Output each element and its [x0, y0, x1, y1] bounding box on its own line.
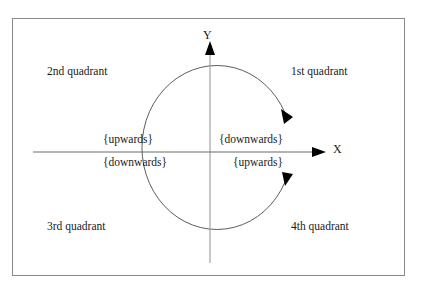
quadrant-label-fourth: 4th quadrant	[291, 221, 349, 233]
direction-label-lower-left: {downwards}	[103, 157, 167, 169]
direction-label-upper-left: {upwards}	[103, 134, 153, 146]
circle-arrow-clockwise-icon	[281, 109, 293, 124]
y-axis-arrowhead-icon	[205, 41, 215, 55]
figure-container: Y X 2nd quadrant 1st quadrant 3rd quadra…	[0, 0, 426, 295]
quadrant-label-second: 2nd quadrant	[47, 66, 107, 78]
quadrant-label-third: 3rd quadrant	[47, 221, 105, 233]
direction-label-lower-right: {upwards}	[233, 157, 283, 169]
quadrant-label-first: 1st quadrant	[291, 66, 348, 78]
x-axis-arrowhead-icon	[312, 147, 326, 157]
circle-arrow-counterclockwise-icon	[282, 172, 293, 186]
direction-circle	[142, 65, 285, 229]
y-axis-label: Y	[203, 29, 212, 41]
coordinate-diagram	[0, 0, 426, 295]
direction-label-upper-right: {downwards}	[219, 134, 283, 146]
x-axis-label: X	[333, 143, 342, 155]
